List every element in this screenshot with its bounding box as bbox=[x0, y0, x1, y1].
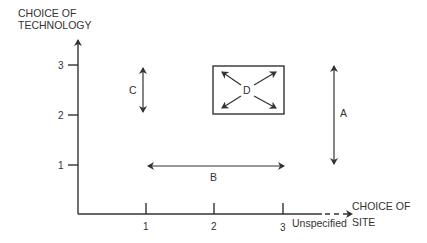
x-tick-label-2: 2 bbox=[211, 221, 217, 232]
y-tick-label-3: 3 bbox=[58, 60, 64, 71]
arrow-d-up-left bbox=[222, 72, 241, 85]
x-axis-title-line2: SITE bbox=[352, 216, 375, 228]
arrow-b-label: B bbox=[210, 171, 217, 183]
y-axis-title-line2: TECHNOLOGY bbox=[18, 19, 92, 31]
arrow-d-down-left bbox=[222, 96, 241, 108]
region-d-label: D bbox=[243, 84, 251, 96]
arrow-d-up-right bbox=[254, 72, 276, 85]
x-axis-extension-label: Unspecified bbox=[292, 217, 347, 229]
x-axis-title-line1: CHOICE OF bbox=[352, 200, 410, 212]
y-tick-label-1: 1 bbox=[58, 160, 64, 171]
arrow-c-label: C bbox=[129, 84, 137, 96]
y-tick-label-2: 2 bbox=[58, 110, 64, 121]
arrow-d-down-right bbox=[254, 96, 276, 108]
x-tick-label-3: 3 bbox=[280, 222, 286, 233]
x-tick-label-1: 1 bbox=[143, 221, 149, 232]
site-technology-diagram: CHOICE OF TECHNOLOGY 3 2 1 1 2 3 Unspeci… bbox=[0, 0, 427, 243]
y-axis-title-line1: CHOICE OF bbox=[18, 7, 76, 19]
arrow-a-label: A bbox=[340, 107, 347, 119]
